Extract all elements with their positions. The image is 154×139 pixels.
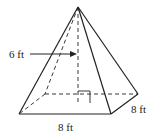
lateral-edge-back-right: [78, 7, 138, 94]
pyramid-diagram: 6 ft 8 ft 8 ft: [0, 0, 154, 139]
hidden-lateral-edge: [45, 7, 78, 94]
base-front-label: 8 ft: [58, 121, 73, 133]
height-label: 6 ft: [9, 48, 24, 60]
base-side-label: 8 ft: [131, 103, 146, 115]
lateral-edge-front-left: [19, 7, 78, 114]
right-angle-marker: [78, 91, 90, 103]
lateral-edge-front-right: [78, 7, 111, 114]
hidden-base-edge-left: [19, 94, 45, 114]
hidden-edges: [19, 7, 138, 114]
arrow-head-icon: [70, 51, 77, 57]
